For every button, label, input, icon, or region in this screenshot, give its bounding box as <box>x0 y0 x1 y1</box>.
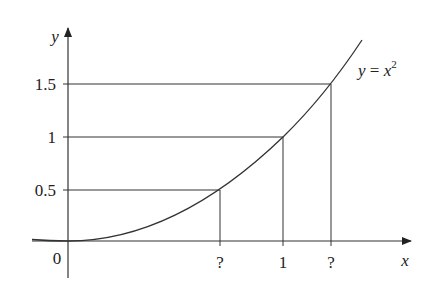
x-axis-label: x <box>400 251 409 270</box>
y-axis-label: y <box>49 27 59 46</box>
x-tick-label-1: 1 <box>279 253 288 272</box>
parabola-diagram: 1.5 1 0.5 ? 1 ? 0 x y y = x2 <box>0 0 439 285</box>
curve-label-eq: = <box>366 61 384 80</box>
curve-label-exp: 2 <box>391 58 397 70</box>
y-tick-label-1: 1 <box>48 128 57 147</box>
x-tick-label-q1: ? <box>216 253 224 272</box>
curve-label-lhs: y <box>356 61 366 80</box>
y-tick-label-1.5: 1.5 <box>35 75 56 94</box>
x-tick-label-q2: ? <box>327 253 335 272</box>
y-tick-label-0.5: 0.5 <box>35 181 56 200</box>
parabola-curve <box>32 40 362 241</box>
origin-label: 0 <box>53 249 62 268</box>
curve-label: y = x2 <box>356 58 397 80</box>
